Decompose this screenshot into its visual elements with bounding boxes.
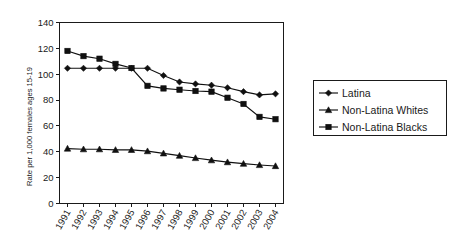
y-tick-label: 20: [43, 172, 54, 183]
data-point-square: [273, 117, 278, 122]
y-tick-label: 60: [43, 120, 54, 131]
y-tick-label: 100: [38, 69, 54, 80]
y-tick-label: 120: [38, 43, 54, 54]
y-tick-label: 140: [38, 17, 54, 28]
legend-label: Non-Latina Blacks: [342, 121, 427, 133]
data-point-square: [209, 89, 214, 94]
data-point-square: [177, 87, 182, 92]
data-point-square: [113, 61, 118, 66]
data-point-square: [161, 86, 166, 91]
data-point-square: [129, 65, 134, 70]
chart-figure: Rate per 1,000 females ages 15-19 020406…: [0, 0, 456, 251]
y-tick-label: 0: [48, 198, 53, 209]
y-tick-label: 80: [43, 94, 54, 105]
data-point-square: [241, 101, 246, 106]
data-point-square: [81, 53, 86, 58]
data-point-square: [257, 114, 262, 119]
teen-birth-rate-line-chart: Rate per 1,000 females ages 15-19 020406…: [0, 0, 456, 251]
y-tick-label: 40: [43, 146, 54, 157]
data-point-square: [145, 83, 150, 88]
y-axis-title: Rate per 1,000 females ages 15-19: [25, 67, 34, 186]
data-point-square: [65, 48, 70, 53]
data-point-square: [193, 88, 198, 93]
data-point-square: [97, 56, 102, 61]
data-point-square: [326, 124, 331, 129]
legend-label: Latina: [342, 87, 371, 99]
legend-label: Non-Latina Whites: [342, 104, 428, 116]
data-point-square: [225, 95, 230, 100]
